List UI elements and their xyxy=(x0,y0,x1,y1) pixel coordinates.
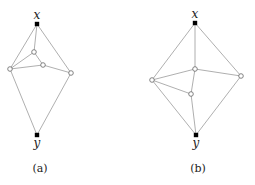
graph-vertex xyxy=(32,50,37,55)
graph-edge xyxy=(152,23,195,80)
vertex-label-y: y xyxy=(192,136,200,150)
graph-diagram-canvas: xy(a) xy(b) xyxy=(0,0,255,185)
graph-edge xyxy=(43,65,71,73)
graph-edge xyxy=(196,76,241,135)
vertex-label-x: x xyxy=(192,7,199,21)
graph-edge xyxy=(195,69,241,76)
graph-edge xyxy=(191,94,196,135)
figure-caption: (a) xyxy=(32,162,47,175)
figure-a: xy(a) xyxy=(8,8,74,175)
graph-vertex xyxy=(193,67,198,72)
vertex-label-y: y xyxy=(33,136,41,150)
graph-vertex xyxy=(41,63,46,68)
graph-vertex xyxy=(239,74,244,79)
graph-edge xyxy=(37,73,71,135)
graph-vertex xyxy=(189,92,194,97)
figure-b: xy(b) xyxy=(150,7,244,175)
graph-vertex xyxy=(8,67,13,72)
graph-edge xyxy=(195,23,241,76)
graph-vertex xyxy=(69,71,74,76)
terminal-vertex-x xyxy=(193,21,197,25)
graph-edge xyxy=(191,69,195,94)
graph-edge xyxy=(10,24,37,69)
graph-edge xyxy=(10,69,37,135)
terminal-vertex-x xyxy=(35,22,39,26)
graph-edge xyxy=(152,69,195,80)
vertex-label-x: x xyxy=(34,8,41,22)
graph-vertex xyxy=(150,78,155,83)
figure-caption: (b) xyxy=(190,162,206,175)
